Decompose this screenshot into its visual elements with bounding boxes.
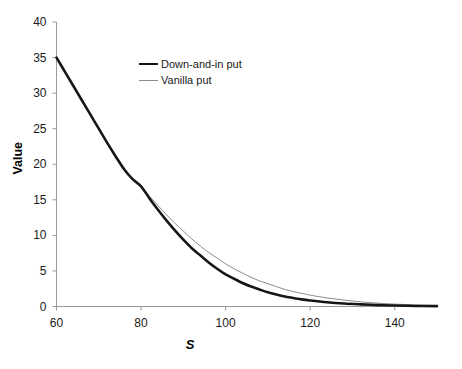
series-line-vanilla-put <box>57 58 438 306</box>
legend-item-label: Down-and-in put <box>161 59 242 70</box>
y-axis-title: Value <box>12 128 25 188</box>
data-series-group <box>57 58 438 307</box>
legend-item-label: Vanilla put <box>161 75 212 86</box>
legend-line-swatch-icon <box>139 59 158 69</box>
chart-figure: 0510152025303540 6080100120140 Value S D… <box>0 0 462 369</box>
y-tick-label: 40 <box>17 16 47 28</box>
chart-legend: Down-and-in put Vanilla put <box>139 57 242 89</box>
y-axis-ticks <box>53 22 57 307</box>
y-tick-label: 0 <box>17 301 47 313</box>
y-tick-label: 15 <box>17 194 47 206</box>
x-tick-label: 120 <box>290 317 330 329</box>
x-tick-label: 140 <box>375 317 415 329</box>
y-tick-label: 10 <box>17 229 47 241</box>
x-axis-title: S <box>160 338 220 351</box>
series-line-down-and-in-put <box>57 58 438 307</box>
legend-item-down-and-in-put: Down-and-in put <box>139 57 242 71</box>
y-tick-label: 30 <box>17 87 47 99</box>
legend-line-swatch-icon <box>139 75 158 85</box>
plot-area <box>0 0 462 369</box>
x-tick-label: 80 <box>121 317 161 329</box>
y-tick-label: 35 <box>17 52 47 64</box>
x-tick-label: 100 <box>206 317 246 329</box>
y-tick-label: 5 <box>17 265 47 277</box>
x-axis-ticks <box>57 307 395 311</box>
legend-item-vanilla-put: Vanilla put <box>139 73 242 87</box>
x-tick-label: 60 <box>37 317 77 329</box>
